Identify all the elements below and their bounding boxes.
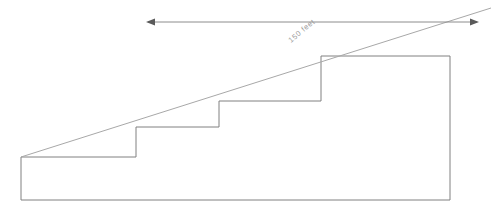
stepped-embankment-diagram: 150 feet bbox=[0, 0, 499, 210]
slope-line bbox=[21, 8, 491, 157]
dimension-label: 150 feet bbox=[287, 17, 317, 45]
arrow-right-icon bbox=[470, 19, 479, 26]
arrow-left-icon bbox=[146, 19, 155, 26]
stepped-shape-outline bbox=[21, 56, 450, 200]
dimension-label-group: 150 feet bbox=[287, 17, 317, 45]
diagram-canvas: 150 feet bbox=[0, 0, 499, 210]
